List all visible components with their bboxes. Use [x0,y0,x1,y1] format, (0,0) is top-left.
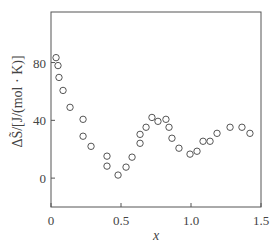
data-point [176,145,182,151]
data-point [155,118,161,124]
y-tick-label: 0 [40,171,47,186]
data-point [80,116,86,122]
plot-frame [51,12,261,207]
y-tick-label: 80 [33,56,46,71]
data-point [227,124,233,130]
data-point [200,138,206,144]
data-point [239,124,245,130]
scatter-chart: 00.51.01.5 04080 x ΔS̃/[J/(mol · K)] [0,0,275,251]
data-point [88,143,94,149]
data-point [207,138,213,144]
data-point [163,116,169,122]
data-point [187,151,193,157]
data-point [143,124,149,130]
x-tick-label: 0 [48,213,55,228]
data-point [137,131,143,137]
data-point [129,154,135,160]
x-axis-label: x [152,228,160,243]
data-point [194,148,200,154]
data-point [247,130,253,136]
data-point [67,104,73,110]
y-axis-ticks: 04080 [33,56,55,187]
y-axis-label: ΔS̃/[J/(mol · K)] [9,55,26,147]
data-points [53,54,253,178]
x-tick-label: 1.5 [253,213,269,228]
data-point [137,140,143,146]
data-point [123,164,129,170]
data-point [115,172,121,178]
y-tick-label: 40 [33,113,46,128]
data-point [169,135,175,141]
data-point [53,54,59,60]
data-point [166,124,172,130]
data-point [55,62,61,68]
data-point [56,74,62,80]
x-tick-label: 0.5 [113,213,129,228]
data-point [80,133,86,139]
x-tick-label: 1.0 [183,213,199,228]
data-point [214,130,220,136]
data-point [104,153,110,159]
data-point [104,163,110,169]
data-point [60,87,66,93]
data-point [149,114,155,120]
